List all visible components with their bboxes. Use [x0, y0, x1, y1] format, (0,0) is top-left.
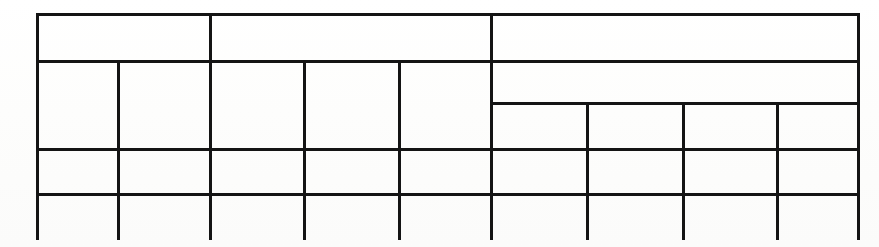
subheader-cell-4[interactable]: [303, 60, 398, 148]
subheader-cell-5[interactable]: [398, 60, 490, 148]
body-r2-c9[interactable]: [776, 193, 857, 240]
body-r2-c5[interactable]: [398, 193, 490, 240]
page-canvas: [0, 0, 879, 247]
subheader-sub-cell-2[interactable]: [586, 102, 682, 148]
body-r1-c1[interactable]: [36, 148, 117, 193]
body-r2-c3[interactable]: [209, 193, 303, 240]
body-r1-c3[interactable]: [209, 148, 303, 193]
body-r2-c1[interactable]: [36, 193, 117, 240]
body-r1-c5[interactable]: [398, 148, 490, 193]
body-r1-c6[interactable]: [490, 148, 586, 193]
subheader-cell-2[interactable]: [117, 60, 209, 148]
subheader-cell-3[interactable]: [209, 60, 303, 148]
body-r2-c6[interactable]: [490, 193, 586, 240]
subheader-sub-cell-4[interactable]: [776, 102, 857, 148]
subheader-sub-cell-3[interactable]: [682, 102, 776, 148]
header-cell-2[interactable]: [209, 13, 490, 60]
header-cell-3[interactable]: [490, 13, 857, 60]
subheader-group-span[interactable]: [490, 60, 857, 102]
body-r2-c2[interactable]: [117, 193, 209, 240]
subheader-sub-cell-1[interactable]: [490, 102, 586, 148]
subheader-cell-1[interactable]: [36, 60, 117, 148]
body-r1-c2[interactable]: [117, 148, 209, 193]
body-r1-c7[interactable]: [586, 148, 682, 193]
body-r2-c8[interactable]: [682, 193, 776, 240]
table-grid: [0, 0, 879, 247]
body-r1-c8[interactable]: [682, 148, 776, 193]
body-r1-c4[interactable]: [303, 148, 398, 193]
body-r1-c9[interactable]: [776, 148, 857, 193]
body-r2-c7[interactable]: [586, 193, 682, 240]
body-r2-c4[interactable]: [303, 193, 398, 240]
header-cell-1[interactable]: [36, 13, 209, 60]
right-border: [857, 13, 860, 240]
